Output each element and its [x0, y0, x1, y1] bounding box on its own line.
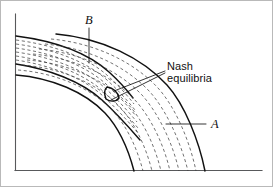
band-a-outer-edge — [56, 34, 205, 171]
curve-label-b: B — [85, 13, 93, 27]
curve-label-a: A — [210, 117, 219, 131]
band-a-inner-edge — [16, 75, 134, 171]
band-a-inner-curve — [39, 49, 179, 171]
nash-callout-line-2: equilibria — [167, 72, 212, 84]
band-a-inner-curve — [33, 54, 170, 171]
band-a-inner-curve — [27, 60, 161, 171]
figure-canvas: B A — [0, 0, 273, 187]
curve-family-a — [16, 34, 205, 171]
band-b-lower-edge — [16, 64, 140, 140]
nash-equilibria-callout: Nash equilibria — [167, 60, 212, 85]
leader-line-nash-upper — [114, 71, 165, 91]
axes-group — [15, 14, 262, 171]
nash-equilibria-figure: B A Nash equilibria — [0, 0, 273, 187]
band-a-inner-curve — [22, 65, 152, 171]
nash-callout-line-1: Nash — [167, 60, 212, 72]
